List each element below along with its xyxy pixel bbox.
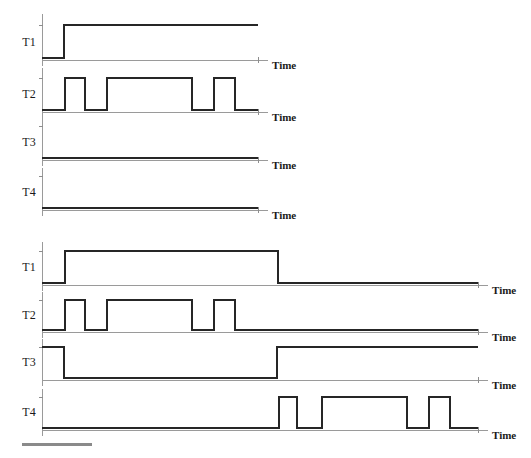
time-axis-label: Time <box>272 209 296 221</box>
signal-trace-t4-panel-bottom: T4Time <box>22 389 516 441</box>
time-axis-label: Time <box>272 59 296 71</box>
panel-top: T1TimeT2TimeT3TimeT4Time <box>22 14 296 221</box>
time-axis-label: Time <box>492 379 516 391</box>
signal-label-t3: T3 <box>22 355 35 369</box>
signal-trace-t2-panel-bottom: T2Time <box>22 292 516 343</box>
time-axis-label: Time <box>272 159 296 171</box>
signal-label-t3: T3 <box>22 135 35 149</box>
time-axis-label: Time <box>492 284 516 296</box>
waveform-t2 <box>42 78 258 110</box>
timing-diagram-figure: T1TimeT2TimeT3TimeT4TimeT1TimeT2TimeT3Ti… <box>0 0 531 458</box>
waveform-t3 <box>42 347 478 378</box>
signal-label-t4: T4 <box>22 185 35 199</box>
signal-trace-t1-panel-bottom: T1Time <box>22 242 516 296</box>
signal-label-t4: T4 <box>22 405 35 419</box>
signal-label-t2: T2 <box>22 87 35 101</box>
signal-label-t2: T2 <box>22 308 35 322</box>
signal-trace-t4-panel-top: T4Time <box>22 168 296 221</box>
signal-trace-t2-panel-top: T2Time <box>22 68 296 123</box>
signal-label-t1: T1 <box>22 260 35 274</box>
signal-label-t1: T1 <box>22 35 35 49</box>
panels-group: T1TimeT2TimeT3TimeT4TimeT1TimeT2TimeT3Ti… <box>22 14 516 441</box>
signal-trace-t3-panel-top: T3Time <box>22 118 296 171</box>
panel-bottom: T1TimeT2TimeT3TimeT4Time <box>22 242 516 441</box>
signal-trace-t1-panel-top: T1Time <box>22 14 296 71</box>
timing-diagram-canvas: T1TimeT2TimeT3TimeT4TimeT1TimeT2TimeT3Ti… <box>0 0 531 458</box>
waveform-t1 <box>42 251 478 283</box>
waveform-t4 <box>42 397 478 428</box>
scale-bar <box>22 443 92 446</box>
waveform-t2 <box>42 300 478 330</box>
time-axis-label: Time <box>492 429 516 441</box>
signal-trace-t3-panel-bottom: T3Time <box>22 339 516 391</box>
time-axis-label: Time <box>492 331 516 343</box>
time-axis-label: Time <box>272 111 296 123</box>
waveform-t1 <box>42 25 258 58</box>
